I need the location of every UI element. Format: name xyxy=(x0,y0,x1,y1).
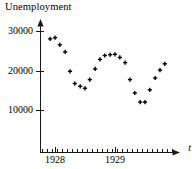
data-point-marker: 1929.33: 14300 xyxy=(133,91,137,95)
data-point-markers: 1927.92: 280001928.00: 283001928.08: 265… xyxy=(48,36,167,105)
data-point-marker: 1929.42: 12000 xyxy=(138,100,142,104)
x-tick-label: 1929 xyxy=(95,155,135,165)
y-tick-label: 20000 xyxy=(8,66,33,76)
data-point-marker: 1929.25: 17700 xyxy=(128,77,132,81)
x-tick-marks xyxy=(43,147,173,153)
x-tick-label: 1928 xyxy=(35,155,75,165)
data-point-marker: 1929.50: 12000 xyxy=(143,100,147,104)
data-point-marker: 1928.00: 28300 xyxy=(53,36,57,40)
y-tick-label: 10000 xyxy=(8,105,33,115)
data-point-marker: 1928.83: 23800 xyxy=(103,53,107,57)
data-point-marker: 1928.08: 26500 xyxy=(58,43,62,47)
x-axis-arrow-icon xyxy=(173,149,181,155)
x-axis-label: t xyxy=(188,142,191,153)
data-point-marker: 1929.58: 15100 xyxy=(148,88,152,92)
data-point-marker: 1928.67: 20400 xyxy=(93,67,97,71)
y-tick-label: 30000 xyxy=(8,26,33,36)
data-point-marker: 1929.67: 18100 xyxy=(153,76,157,80)
data-point-marker: 1928.50: 15500 xyxy=(83,86,87,90)
data-point-marker: 1929.17: 22000 xyxy=(123,61,127,65)
axes-group xyxy=(37,19,180,156)
data-point-marker: 1928.17: 24700 xyxy=(63,50,67,54)
data-point-marker: 1927.92: 28000 xyxy=(48,37,52,41)
data-point-marker: 1929.08: 23300 xyxy=(118,55,122,59)
data-point-marker: 1929.75: 20100 xyxy=(158,68,162,72)
data-point-marker: 1928.42: 16000 xyxy=(78,84,82,88)
data-point-marker: 1928.75: 22800 xyxy=(98,57,102,61)
data-point-marker: 1928.33: 16700 xyxy=(73,81,77,85)
unemployment-chart-figure: Unemployment 1927.92: 280001928.00: 2830… xyxy=(0,0,192,169)
data-point-marker: 1928.58: 17700 xyxy=(88,77,92,81)
data-point-marker: 1928.25: 19800 xyxy=(68,69,72,73)
data-point-marker: 1929.83: 21700 xyxy=(163,62,167,66)
y-axis-arrow-icon xyxy=(37,19,43,27)
data-point-marker: 1928.92: 24000 xyxy=(108,53,112,57)
data-point-marker: 1929.00: 24100 xyxy=(113,52,117,56)
